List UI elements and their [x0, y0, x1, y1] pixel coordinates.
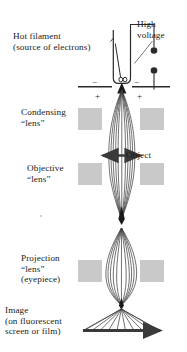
- plus-sign-right: +: [137, 91, 142, 101]
- objective-lens-block-left: [78, 163, 102, 185]
- electron-microscope-figure: − − + +: [0, 0, 187, 352]
- label-object: Object: [126, 150, 151, 161]
- objective-lens-block-right: [140, 163, 164, 185]
- scan-speck: [40, 215, 42, 217]
- filament-coil-right: [123, 77, 127, 82]
- label-high-voltage: High voltage: [137, 19, 165, 40]
- minus-sign-right: −: [134, 77, 139, 87]
- label-image: Image (on fluorescent screen or film): [5, 305, 62, 337]
- label-condensing-lens: Condensing “lens”: [21, 107, 66, 128]
- hv-terminal-lower: [151, 67, 158, 74]
- image-forming-rays: [83, 309, 160, 331]
- projection-lens-block-right: [140, 260, 164, 282]
- minus-sign-left: −: [92, 77, 97, 87]
- label-projection-lens: Projection “lens” (eyepiece): [21, 253, 60, 285]
- hot-filament-cup: [111, 30, 131, 83]
- hv-terminal-upper: [151, 47, 158, 54]
- plus-sign-left: +: [95, 91, 100, 101]
- electron-beam-lower: [106, 228, 137, 305]
- projection-lens-block-left: [78, 260, 102, 282]
- label-hot-filament: Hot filament (source of electrons): [13, 31, 91, 52]
- lens-blocks: [78, 108, 164, 282]
- anode-charge-signs: − − + +: [92, 77, 142, 101]
- filament-coil-left: [119, 77, 123, 82]
- condensing-lens-block-right: [140, 108, 164, 130]
- label-objective-lens: Objective “lens”: [27, 163, 64, 184]
- condensing-lens-block-left: [78, 108, 102, 130]
